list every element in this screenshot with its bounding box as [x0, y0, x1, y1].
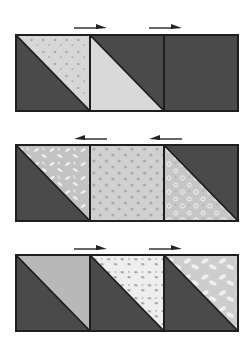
press-arrow-right-icon	[149, 244, 182, 252]
half-square-triangle-leaf	[17, 146, 89, 220]
quilt-row-2	[15, 144, 239, 222]
press-arrow-right-icon	[149, 23, 182, 31]
quilt-row-3	[15, 254, 239, 332]
half-square-triangle-light	[89, 36, 163, 110]
press-arrow-right-icon	[74, 244, 107, 252]
half-square-triangle-speckle	[17, 36, 89, 110]
quilt-row-1	[15, 34, 239, 112]
dotted-light-square	[89, 146, 163, 220]
press-arrow-left-icon	[149, 134, 182, 142]
half-square-triangle-leaf-light	[163, 256, 237, 330]
half-square-triangle-plain	[17, 256, 89, 330]
half-square-triangle-flower	[163, 146, 237, 220]
half-square-triangle-floral-white	[89, 256, 163, 330]
press-arrow-right-icon	[74, 23, 107, 31]
solid-dark-square	[163, 36, 237, 110]
press-arrow-left-icon	[74, 134, 107, 142]
